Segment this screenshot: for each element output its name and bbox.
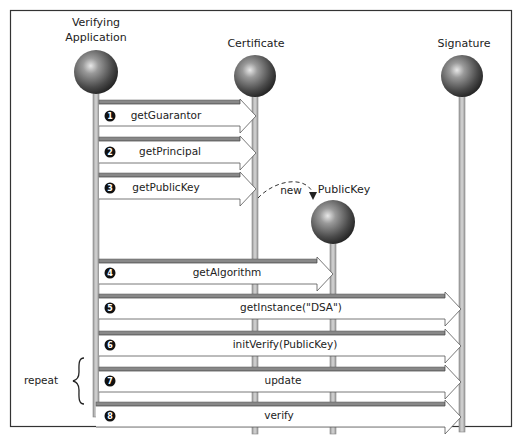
svg-text:3: 3 [107, 184, 113, 193]
object-label-verifying-application-line1: Verifying [72, 16, 120, 29]
repeat-label: repeat [24, 374, 58, 386]
sequence-diagram: Verifying Application Certificate Signat… [0, 0, 525, 447]
message-label-8: verify [264, 409, 294, 421]
message-label-7: update [265, 374, 302, 386]
object-sphere-verifying-application [74, 50, 118, 94]
svg-text:6: 6 [107, 341, 113, 350]
svg-text:8: 8 [107, 412, 113, 421]
message-label-2: getPrincipal [139, 145, 201, 157]
message-label-5: getInstance("DSA") [240, 301, 342, 313]
creation-label-new: new [280, 184, 302, 196]
object-label-verifying-application-line2: Application [65, 31, 126, 44]
object-label-publickey: PublicKey [318, 183, 371, 196]
svg-text:7: 7 [107, 377, 113, 386]
lifeline-verifying-application [93, 90, 99, 417]
object-sphere-certificate [234, 55, 276, 97]
message-label-6: initVerify(PublicKey) [233, 338, 338, 350]
object-sphere-publickey [311, 200, 355, 244]
svg-text:4: 4 [107, 269, 113, 278]
message-label-1: getGuarantor [131, 109, 202, 121]
object-label-certificate: Certificate [227, 37, 284, 50]
object-sphere-signature [441, 55, 483, 97]
object-label-signature: Signature [437, 37, 490, 50]
svg-text:1: 1 [107, 112, 113, 121]
svg-text:5: 5 [107, 304, 113, 313]
svg-text:2: 2 [107, 148, 113, 157]
message-label-4: getAlgorithm [193, 266, 262, 278]
message-label-3: getPublicKey [132, 181, 199, 193]
